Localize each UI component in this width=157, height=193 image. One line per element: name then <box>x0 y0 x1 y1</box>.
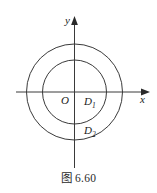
origin-label: O <box>61 94 69 106</box>
region-label-d2-base: D <box>83 124 92 136</box>
concentric-circles-diagram: y x O D 1 D 2 <box>0 0 157 193</box>
y-axis-arrowhead <box>71 16 78 25</box>
region-label-d1: D 1 <box>83 95 96 110</box>
x-axis-label: x <box>139 93 145 105</box>
figure-container: y x O D 1 D 2 图 6.60 <box>0 0 157 193</box>
region-label-d1-base: D <box>83 95 92 107</box>
region-label-d1-subscript: 1 <box>92 101 96 110</box>
region-label-d2-subscript: 2 <box>92 130 96 139</box>
region-label-d2: D 2 <box>83 124 96 139</box>
y-axis-label: y <box>64 14 70 26</box>
figure-caption: 图 6.60 <box>0 169 157 185</box>
